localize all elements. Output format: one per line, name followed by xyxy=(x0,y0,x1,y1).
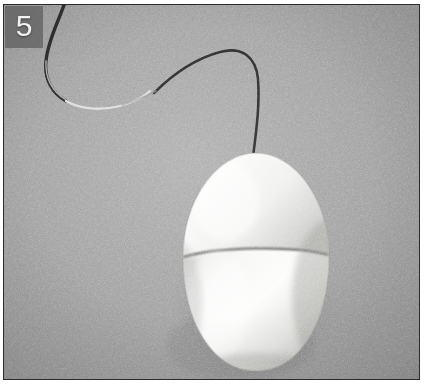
image-index-label: 5 xyxy=(16,11,33,41)
image-index-badge: 5 xyxy=(5,6,43,48)
photo-frame: 5 xyxy=(3,4,420,380)
photo-canvas: 5 xyxy=(4,5,419,379)
photo-scene xyxy=(4,5,419,379)
